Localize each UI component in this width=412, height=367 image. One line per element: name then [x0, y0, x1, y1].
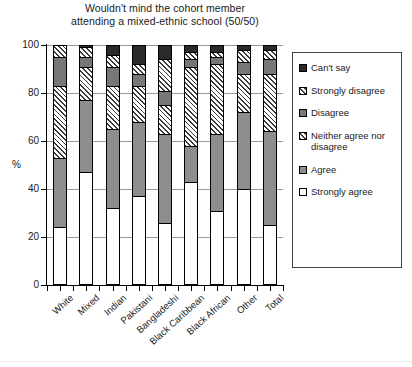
x-tick-mark-2 [99, 286, 100, 291]
bar-segment-disagree[interactable] [79, 57, 93, 67]
bar-segment-neither-agree-nor-disagree[interactable] [184, 67, 198, 146]
bar-segment-agree[interactable] [184, 146, 198, 182]
x-tick-mark-4 [152, 286, 153, 291]
x-axis-label-white: White [50, 292, 75, 316]
bar-segment-agree[interactable] [158, 134, 172, 223]
bar-segment-disagree[interactable] [210, 57, 224, 64]
chart-legend: Can't sayStrongly disagreeDisagreeNeithe… [292, 52, 402, 268]
bar-segment-disagree[interactable] [263, 59, 277, 73]
bar-segment-can-t-say[interactable] [132, 45, 146, 64]
y-tick-mark-60 [41, 141, 47, 142]
bar-indian[interactable] [106, 45, 120, 285]
x-tick-mark-mid-3 [139, 286, 140, 291]
bar-black-caribbean[interactable] [184, 45, 198, 285]
bar-bangladeshi[interactable] [158, 45, 172, 285]
bar-segment-can-t-say[interactable] [158, 45, 172, 59]
x-tick-mark-0 [47, 286, 48, 291]
x-tick-mark-8 [257, 286, 258, 291]
bar-segment-can-t-say[interactable] [184, 45, 198, 52]
chart-title-line-1: Wouldn't mind the cohort member [40, 2, 290, 15]
y-tick-mark-100 [41, 45, 47, 46]
y-tick-label-100: 100 [3, 40, 39, 50]
y-tick-label-60: 60 [3, 136, 39, 146]
bar-segment-strongly-agree[interactable] [53, 227, 67, 285]
legend-swatch-neither-icon [299, 132, 307, 140]
bar-segment-strongly-disagree[interactable] [263, 50, 277, 60]
legend-label: Strongly agree [311, 186, 373, 198]
bar-segment-can-t-say[interactable] [106, 45, 120, 55]
bar-segment-strongly-agree[interactable] [106, 208, 120, 285]
bar-white[interactable] [53, 45, 67, 285]
legend-swatch-strongly-disagree-icon [299, 87, 307, 95]
bar-other[interactable] [237, 45, 251, 285]
bar-black-african[interactable] [210, 45, 224, 285]
chart-title-line-2: attending a mixed-ethnic school (50/50) [40, 15, 290, 28]
bar-pakistani[interactable] [132, 45, 146, 285]
bar-segment-agree[interactable] [237, 112, 251, 189]
legend-item-cant-say[interactable]: Can't say [299, 62, 395, 74]
bar-total[interactable] [263, 45, 277, 285]
y-tick-mark-80 [41, 93, 47, 94]
legend-label: Can't say [311, 62, 350, 74]
y-tick-label-40: 40 [3, 184, 39, 194]
bar-segment-neither-agree-nor-disagree[interactable] [158, 105, 172, 134]
bar-segment-disagree[interactable] [184, 59, 198, 66]
bar-segment-strongly-agree[interactable] [79, 172, 93, 285]
bar-segment-strongly-disagree[interactable] [237, 50, 251, 62]
bar-segment-strongly-agree[interactable] [237, 189, 251, 285]
bar-segment-neither-agree-nor-disagree[interactable] [79, 67, 93, 101]
bar-segment-agree[interactable] [210, 134, 224, 211]
x-tick-mark-mid-1 [86, 286, 87, 291]
legend-item-neither[interactable]: Neither agree nor disagree [299, 130, 395, 153]
x-tick-mark-mid-8 [270, 286, 271, 291]
x-axis-label-mixed: Mixed [75, 292, 101, 317]
bar-segment-strongly-agree[interactable] [132, 196, 146, 285]
legend-swatch-agree-icon [299, 166, 307, 174]
legend-label: Disagree [311, 107, 349, 119]
bar-segment-strongly-agree[interactable] [158, 223, 172, 285]
legend-swatch-cant-say-icon [299, 64, 307, 72]
bar-segment-agree[interactable] [263, 131, 277, 225]
bar-segment-strongly-disagree[interactable] [79, 47, 93, 57]
bar-segment-agree[interactable] [106, 129, 120, 208]
bar-segment-strongly-agree[interactable] [184, 182, 198, 285]
legend-label: Agree [311, 164, 336, 176]
bar-segment-neither-agree-nor-disagree[interactable] [263, 74, 277, 132]
bar-segment-disagree[interactable] [106, 67, 120, 86]
bar-segment-strongly-disagree[interactable] [106, 55, 120, 67]
bar-segment-neither-agree-nor-disagree[interactable] [210, 64, 224, 134]
x-axis-label-total: Total [263, 292, 285, 314]
bar-segment-strongly-agree[interactable] [210, 211, 224, 285]
bar-segment-agree[interactable] [132, 122, 146, 196]
y-tick-label-80: 80 [3, 88, 39, 98]
bar-segment-strongly-disagree[interactable] [184, 52, 198, 59]
plot-area [47, 45, 283, 285]
bar-segment-disagree[interactable] [237, 62, 251, 74]
bar-segment-neither-agree-nor-disagree[interactable] [237, 74, 251, 112]
y-axis-tick-labels: 020406080100 [0, 0, 39, 367]
bar-segment-disagree[interactable] [158, 91, 172, 105]
y-tick-mark-40 [41, 189, 47, 190]
bar-segment-neither-agree-nor-disagree[interactable] [106, 86, 120, 129]
bar-segment-agree[interactable] [53, 158, 67, 228]
bar-segment-strongly-agree[interactable] [263, 225, 277, 285]
y-tick-mark-20 [41, 237, 47, 238]
legend-swatch-strongly-agree-icon [299, 188, 307, 196]
x-tick-mark-mid-2 [113, 286, 114, 291]
bar-segment-strongly-disagree[interactable] [53, 45, 67, 57]
bar-segment-strongly-disagree[interactable] [158, 59, 172, 90]
bar-segment-disagree[interactable] [53, 57, 67, 86]
legend-item-strongly-disagree[interactable]: Strongly disagree [299, 85, 395, 97]
bar-segment-disagree[interactable] [132, 74, 146, 86]
bar-segment-neither-agree-nor-disagree[interactable] [53, 86, 67, 158]
x-tick-mark-mid-0 [60, 286, 61, 291]
bar-segment-neither-agree-nor-disagree[interactable] [132, 86, 146, 122]
bar-mixed[interactable] [79, 45, 93, 285]
chart-title: Wouldn't mind the cohort member attendin… [40, 2, 290, 28]
legend-item-disagree[interactable]: Disagree [299, 107, 395, 119]
legend-item-strongly-agree[interactable]: Strongly agree [299, 186, 395, 198]
bar-segment-can-t-say[interactable] [210, 45, 224, 52]
bar-segment-agree[interactable] [79, 100, 93, 172]
bar-segment-strongly-disagree[interactable] [132, 64, 146, 74]
legend-item-agree[interactable]: Agree [299, 164, 395, 176]
